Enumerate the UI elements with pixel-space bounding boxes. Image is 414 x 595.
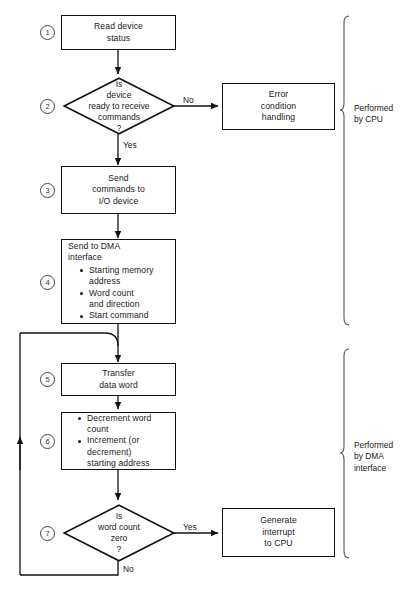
bullet-word-count-and-direction: Word count and direction	[80, 288, 170, 310]
node-decrement-bullets: Decrement word count Increment (or decre…	[66, 413, 170, 469]
node-read-device-status: Read device status	[61, 15, 176, 50]
step-number-6: 6	[40, 434, 55, 449]
step-number-2: 2	[40, 99, 55, 114]
step-number-7: 7	[40, 526, 55, 541]
node-transfer-data-word-label: Transfer data word	[99, 368, 138, 391]
node-generate-interrupt-label: Generate interrupt to CPU	[260, 515, 297, 549]
node-error-condition-handling: Error condition handling	[222, 83, 335, 130]
node-decrement-increment: Decrement word count Increment (or decre…	[61, 412, 176, 470]
step-number-4: 4	[40, 275, 55, 290]
edge-loop-join	[20, 333, 118, 346]
step-number-5: 5	[40, 372, 55, 387]
edge-label-yes-device-ready: Yes	[123, 140, 137, 150]
node-send-commands-label: Send commands to I/O device	[92, 173, 145, 207]
brace-cpu-shape	[340, 16, 349, 325]
node-read-device-status-label: Read device status	[94, 21, 143, 44]
brace-label-performed-by-cpu: Performed by CPU	[354, 103, 393, 126]
brace-dma-shape	[340, 349, 349, 558]
brace-label-performed-by-dma: Performed by DMA interface	[354, 440, 393, 474]
step-number-1: 1	[40, 25, 55, 40]
node-send-to-dma-head: Send to DMA interface	[68, 241, 170, 264]
node-send-commands-to-io-device: Send commands to I/O device	[61, 166, 176, 214]
flowchart-canvas: 1 2 3 4 5 6 7 Read device status Is devi…	[0, 0, 414, 595]
edge-label-yes-word-count: Yes	[183, 522, 197, 532]
node-error-condition-handling-label: Error condition handling	[261, 89, 296, 123]
node-generate-interrupt-to-cpu: Generate interrupt to CPU	[222, 508, 335, 557]
edge-zero-no-to-loop	[20, 561, 118, 575]
step-number-3: 3	[40, 183, 55, 198]
node-send-to-dma-interface: Send to DMA interface Starting memory ad…	[61, 239, 176, 324]
node-is-device-ready: Is device ready to receive commands ?	[63, 77, 175, 135]
edge-label-no-word-count: No	[123, 564, 134, 574]
node-send-to-dma-bullets: Starting memory address Word count and d…	[68, 265, 170, 322]
node-transfer-data-word: Transfer data word	[61, 363, 176, 396]
bullet-start-command: Start command	[80, 310, 170, 321]
bullet-starting-memory-address: Starting memory address	[80, 265, 170, 287]
bullet-increment-starting-address: Increment (or decrement) starting addres…	[78, 435, 170, 469]
edge-label-no-device-ready: No	[183, 95, 194, 105]
node-is-word-count-zero: Is word count zero ?	[63, 504, 175, 562]
bullet-decrement-word-count: Decrement word count	[78, 413, 170, 435]
